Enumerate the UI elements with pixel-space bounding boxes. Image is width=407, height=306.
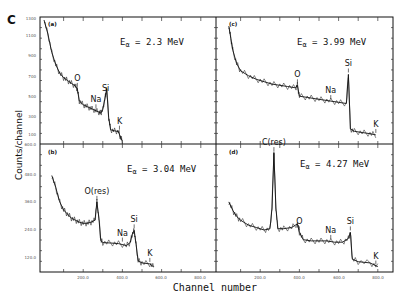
peak-label: K — [373, 120, 379, 129]
svg-text:500: 500 — [28, 94, 36, 99]
svg-text:700: 700 — [28, 74, 36, 79]
panel-d-label: (d) — [229, 149, 238, 155]
svg-text:400.0: 400.0 — [293, 275, 305, 280]
svg-text:600.0: 600.0 — [333, 275, 345, 280]
spectrum-noise — [44, 22, 122, 144]
svg-text:Eα = 3.99 MeV: Eα = 3.99 MeV — [297, 37, 367, 49]
peak-label: Si — [102, 84, 109, 93]
peak-label: O — [74, 74, 80, 83]
svg-text:1100: 1100 — [26, 33, 37, 38]
svg-text:Eα = 4.27 MeV: Eα = 4.27 MeV — [300, 159, 370, 171]
peak-label: Na — [325, 86, 336, 95]
y-axis-label: Counts/channel — [14, 110, 24, 180]
svg-text:300: 300 — [28, 114, 36, 119]
peak-label: K — [147, 249, 153, 258]
panel-b-label: (b) — [48, 149, 57, 155]
peak-label: Si — [131, 215, 138, 224]
svg-text:800.0: 800.0 — [194, 275, 206, 280]
panel-d-title: Eα = 4.27 MeV — [300, 159, 370, 171]
peak-label: Na — [90, 95, 101, 104]
peak-label: K — [373, 252, 379, 261]
peak-label: Na — [117, 229, 128, 238]
svg-text:360.0: 360.0 — [25, 199, 37, 204]
x-axis-label: Channel number — [173, 282, 257, 293]
svg-text:1300: 1300 — [26, 16, 37, 21]
peak-label: Si — [345, 59, 352, 68]
spectrum-line-a — [44, 20, 122, 141]
spectra-figure: C Counts/channel Channel number 1300 110… — [0, 0, 407, 306]
panel-a-label: (a) — [48, 21, 57, 27]
svg-text:Eα = 2.3 MeV: Eα = 2.3 MeV — [120, 37, 184, 49]
panel-c-title: Eα = 3.99 MeV — [297, 37, 367, 49]
peak-label: Si — [347, 217, 354, 226]
peak-label: O — [296, 217, 302, 226]
panel-frames — [40, 17, 393, 272]
peak-label: K — [117, 117, 123, 126]
spectrum-line-d — [229, 153, 378, 267]
panel-c-label: (c) — [229, 21, 238, 27]
svg-text:480.0: 480.0 — [25, 172, 37, 177]
peak-label: O — [294, 70, 300, 79]
tick-labels: 1300 1100 900 700 500 300 100 600.0 480.… — [25, 16, 385, 280]
svg-text:900: 900 — [28, 53, 36, 58]
svg-text:120.0: 120.0 — [25, 255, 37, 260]
peak-label: O(res) — [85, 187, 110, 196]
svg-text:Eα = 3.04 MeV: Eα = 3.04 MeV — [127, 164, 197, 176]
svg-text:200.0: 200.0 — [77, 275, 89, 280]
peak-label: Na — [325, 226, 336, 235]
panel-a-title: Eα = 2.3 MeV — [120, 37, 184, 49]
svg-text:100: 100 — [28, 132, 36, 137]
svg-text:600.0: 600.0 — [25, 142, 37, 147]
svg-text:240.0: 240.0 — [25, 227, 37, 232]
svg-text:600.0: 600.0 — [155, 275, 167, 280]
svg-text:800.0: 800.0 — [372, 275, 384, 280]
figure-label: C — [7, 13, 16, 27]
peak-label: C(res) — [262, 138, 286, 147]
svg-text:200.0: 200.0 — [254, 275, 266, 280]
svg-text:400.0: 400.0 — [116, 275, 128, 280]
panel-b-title: Eα = 3.04 MeV — [127, 164, 197, 176]
